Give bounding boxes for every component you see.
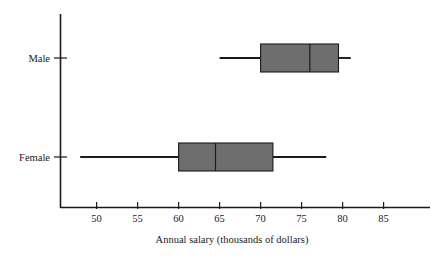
box-plot-male [220,44,351,72]
x-tick-label-7: 85 [378,213,389,224]
category-label-male: Male [28,53,50,64]
boxes-layer [80,44,351,171]
x-tick-label-3: 65 [214,213,225,224]
box-iqr [261,44,339,72]
plot-area: Male Female 50 55 60 65 70 75 80 85 Annu… [0,0,431,258]
x-tick-label-6: 80 [337,213,348,224]
category-label-female: Female [19,152,50,163]
x-axis-tick-labels: 50 55 60 65 70 75 80 85 [91,213,389,224]
x-tick-label-1: 55 [132,213,143,224]
x-tick-label-0: 50 [91,213,102,224]
box-iqr [179,143,273,171]
x-tick-label-2: 60 [173,213,184,224]
x-tick-label-5: 75 [296,213,307,224]
box-plot-female [80,143,326,171]
x-axis-title: Annual salary (thousands of dollars) [156,234,309,246]
box-plot-chart: Male Female 50 55 60 65 70 75 80 85 Annu… [0,0,431,258]
x-tick-label-4: 70 [255,213,266,224]
